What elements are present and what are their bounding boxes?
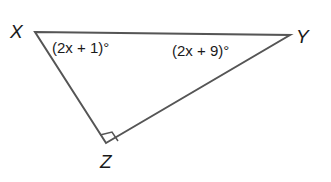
- triangle-diagram: X Y Z (2x + 1)° (2x + 9)°: [0, 0, 331, 182]
- vertex-label-z: Z: [99, 151, 113, 172]
- angle-label-y: (2x + 9)°: [172, 42, 229, 59]
- vertex-label-y: Y: [296, 26, 310, 47]
- angle-label-x: (2x + 1)°: [52, 39, 109, 56]
- vertex-label-x: X: [9, 21, 24, 42]
